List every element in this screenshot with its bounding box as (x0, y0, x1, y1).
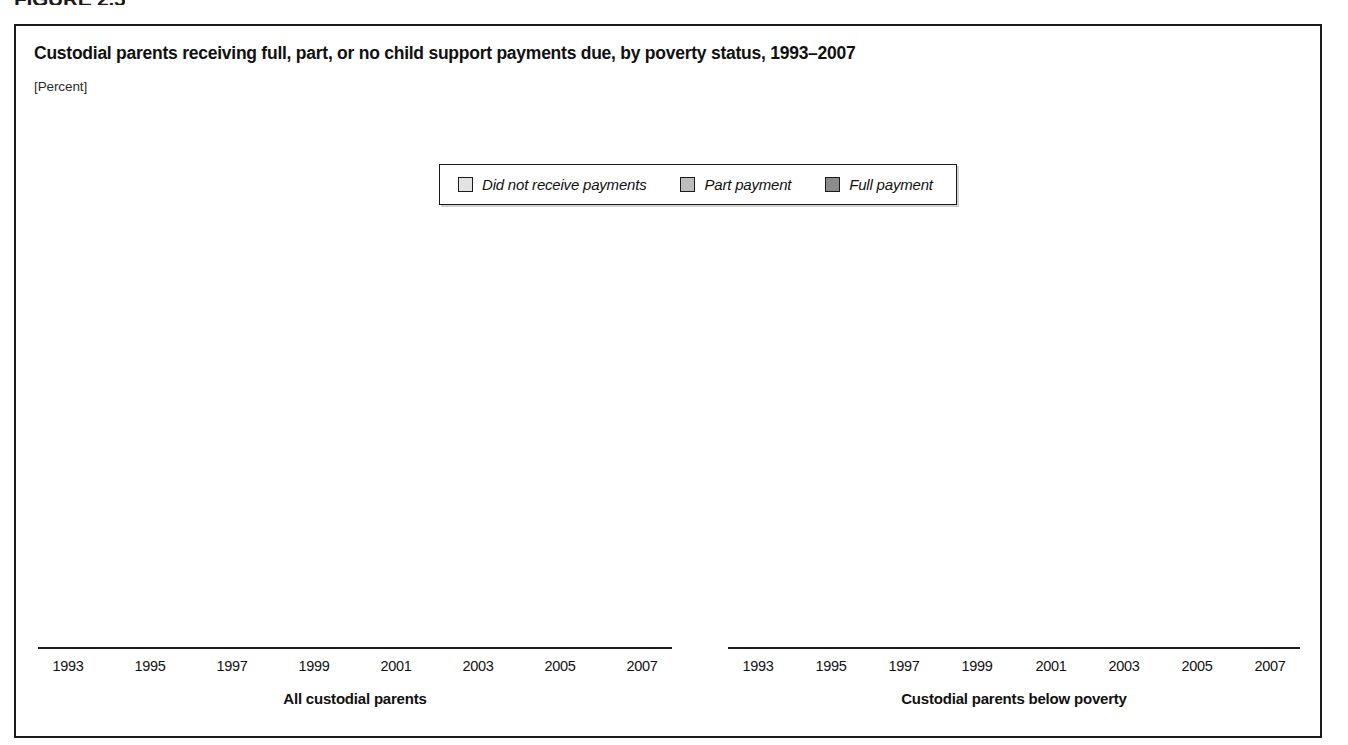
x-axis-tick-label: 1993 (728, 658, 788, 674)
x-axis-tick-label: 2005 (1167, 658, 1227, 674)
x-axis-tick-label: 2003 (448, 658, 508, 674)
x-axis-tick-label: 1997 (202, 658, 262, 674)
x-axis-tick-label: 2005 (530, 658, 590, 674)
panel-group-label: All custodial parents (38, 690, 672, 707)
x-axis-tick-label: 2007 (612, 658, 672, 674)
axis-line-panel-1 (38, 647, 672, 649)
axis-line-panel-2 (728, 647, 1300, 649)
x-axis-tick-label: 2001 (1021, 658, 1081, 674)
figure-page: FIGURE 2.5 Custodial parents receiving f… (0, 0, 1348, 745)
x-axis-tick-label: 1995 (120, 658, 180, 674)
figure-frame: Custodial parents receiving full, part, … (14, 24, 1322, 738)
x-axis-tick-label: 1993 (38, 658, 98, 674)
x-axis-tick-label: 1995 (801, 658, 861, 674)
x-axis-tick-label: 1997 (874, 658, 934, 674)
chart-plot-area: 24.238.936.9199324.333.442.3199524.729.1… (16, 26, 1320, 736)
x-axis-tick-label: 1999 (284, 658, 344, 674)
figure-number-header: FIGURE 2.5 (14, 0, 125, 5)
x-axis-tick-label: 1999 (947, 658, 1007, 674)
x-axis-tick-label: 2007 (1240, 658, 1300, 674)
panel-group-label: Custodial parents below poverty (728, 690, 1300, 707)
x-axis-tick-label: 2003 (1094, 658, 1154, 674)
x-axis-tick-label: 2001 (366, 658, 426, 674)
